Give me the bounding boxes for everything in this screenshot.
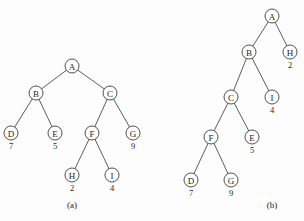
- node-label: F: [208, 133, 213, 143]
- tree-edge: [234, 59, 247, 91]
- node-value: 7: [9, 141, 13, 151]
- tree-node[interactable]: H2: [283, 45, 297, 70]
- node-label: G: [130, 129, 137, 139]
- tree-node[interactable]: I4: [105, 168, 119, 193]
- tree-edge: [75, 139, 89, 168]
- tree-edge: [113, 99, 129, 127]
- tree-node[interactable]: F: [204, 130, 218, 144]
- node-label: I: [271, 93, 274, 103]
- tree-edge: [95, 99, 107, 126]
- node-label: D: [188, 176, 195, 186]
- node-value: 9: [229, 188, 233, 198]
- node-label: B: [33, 89, 39, 99]
- node-value: 9: [131, 141, 135, 151]
- node-value: 2: [70, 183, 74, 193]
- tree-edge: [275, 22, 287, 45]
- binary-tree-figure: ABCD7E5FG9H2I4(a)ABH2CI4FE5D7G9(b): [0, 0, 304, 221]
- tree-node[interactable]: A: [265, 9, 279, 23]
- tree-node[interactable]: B: [29, 86, 43, 100]
- tree-node[interactable]: I4: [265, 90, 279, 115]
- tree-node[interactable]: H2: [65, 168, 79, 193]
- tree-diagram-canvas: ABCD7E5FG9H2I4(a)ABH2CI4FE5D7G9(b): [0, 0, 304, 221]
- panel-caption: (a): [67, 200, 77, 210]
- tree-node[interactable]: G9: [126, 126, 140, 151]
- node-label: A: [69, 62, 76, 72]
- tree-edge: [194, 143, 208, 173]
- tree-edge: [42, 70, 67, 89]
- node-value: 5: [250, 145, 254, 155]
- node-label: E: [249, 133, 255, 143]
- tree-node[interactable]: A: [65, 59, 79, 73]
- node-label: G: [228, 176, 235, 186]
- node-label: C: [228, 93, 234, 103]
- node-label: F: [89, 129, 94, 139]
- tree-edge: [214, 103, 228, 130]
- node-label: E: [52, 129, 58, 139]
- node-label: I: [111, 171, 114, 181]
- tree-edge: [252, 58, 269, 91]
- tree-edge: [15, 99, 33, 127]
- node-value: 2: [288, 60, 292, 70]
- tree-edge: [95, 139, 109, 168]
- node-value: 5: [53, 141, 57, 151]
- panel-caption: (b): [267, 200, 278, 210]
- tree-node[interactable]: B: [242, 45, 256, 59]
- node-value: 4: [110, 183, 115, 193]
- tree-edge: [78, 70, 105, 89]
- tree-node[interactable]: E5: [245, 130, 259, 155]
- tree-edge: [234, 103, 249, 131]
- tree-node[interactable]: G9: [224, 173, 238, 198]
- tree-edge: [214, 143, 228, 173]
- tree-edge: [39, 99, 52, 126]
- node-label: H: [69, 171, 76, 181]
- tree-edge: [253, 22, 268, 46]
- node-value: 4: [270, 105, 275, 115]
- node-value: 7: [189, 188, 193, 198]
- tree-node[interactable]: C: [224, 90, 238, 104]
- tree-node[interactable]: E5: [48, 126, 62, 151]
- tree-node[interactable]: F: [85, 126, 99, 140]
- node-label: H: [287, 48, 294, 58]
- tree-node[interactable]: D7: [184, 173, 198, 198]
- node-label: A: [269, 12, 276, 22]
- node-label: C: [107, 89, 113, 99]
- tree-node[interactable]: D7: [4, 126, 18, 151]
- node-label: D: [8, 129, 15, 139]
- tree-node[interactable]: C: [103, 86, 117, 100]
- node-label: B: [246, 48, 252, 58]
